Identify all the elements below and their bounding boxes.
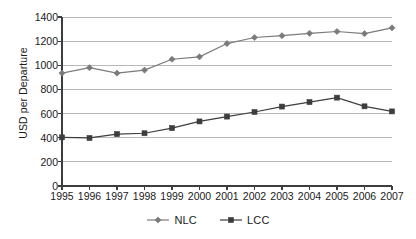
data-point [60, 135, 65, 140]
data-point [362, 104, 367, 109]
legend-item-nlc[interactable]: NLC [146, 214, 197, 226]
data-point [59, 70, 65, 76]
data-point [335, 95, 340, 100]
legend-label: LCC [247, 214, 270, 226]
data-point [196, 54, 202, 60]
data-point [142, 131, 147, 136]
data-point [169, 56, 175, 62]
diamond-marker-icon [146, 215, 170, 225]
data-point [87, 135, 92, 140]
data-point [114, 70, 120, 76]
data-point [115, 132, 120, 137]
data-point [252, 110, 257, 115]
data-point [251, 34, 257, 40]
data-point [170, 126, 175, 131]
square-marker-icon [219, 215, 243, 225]
data-point [306, 30, 312, 36]
chart-legend: NLCLCC [0, 214, 416, 226]
data-point [280, 104, 285, 109]
legend-item-lcc[interactable]: LCC [219, 214, 270, 226]
data-point [307, 100, 312, 105]
data-point [279, 33, 285, 39]
series-nlc [59, 25, 395, 76]
grid-lines [62, 17, 392, 162]
data-point [334, 28, 340, 34]
data-point [361, 31, 367, 37]
data-point [197, 119, 202, 124]
series-lcc [60, 95, 395, 140]
data-point [389, 25, 395, 31]
data-point [141, 67, 147, 73]
plot-area [0, 0, 416, 239]
data-point [225, 114, 230, 119]
data-point [390, 109, 395, 114]
legend-label: NLC [174, 214, 197, 226]
chart-container: USD per Departure 0200400600800100012001… [0, 0, 416, 239]
